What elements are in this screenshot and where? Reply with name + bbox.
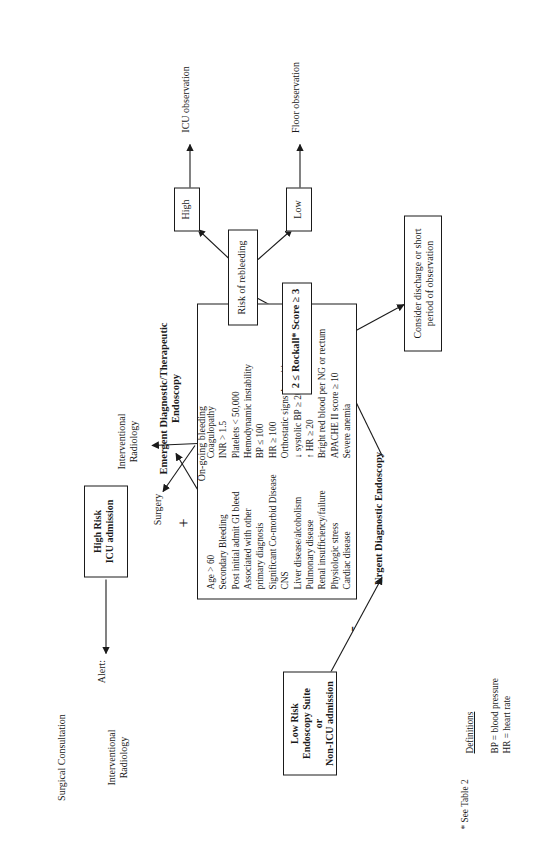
node-low[interactable]: Low (286, 187, 312, 231)
node-surgery[interactable]: Surgery (152, 481, 164, 537)
edge-rebleed-to-high (198, 229, 230, 259)
node-interventional-radiology-mid[interactable]: Interventional Radiology (116, 405, 140, 477)
node-high-risk[interactable]: High Risk ICU admission (84, 485, 128, 577)
node-emergent-diagnostic-therapeutic-endoscopy[interactable]: Emergent Diagnostic/Therapeutic Endoscop… (158, 313, 183, 483)
risk-criteria-right-column: Coagulopathy INR > 1.5 Platelets < 50,00… (205, 328, 353, 458)
footnote-see-table-2: * See Table 2 (460, 719, 470, 829)
edge-label-minus: - (344, 626, 360, 631)
figure-page: Age > 60 Secondary Bleeding Post initial… (0, 0, 538, 849)
node-ongoing-bleeding[interactable]: On-going bleeding (196, 389, 208, 497)
node-low-risk[interactable]: Low Risk Endoscopy Suite or Non-ICU admi… (283, 671, 337, 775)
node-alert[interactable]: Alert: (96, 651, 108, 691)
flowchart-canvas: Age > 60 Secondary Bleeding Post initial… (0, 0, 538, 849)
node-high[interactable]: High (174, 187, 200, 231)
node-rockall-score[interactable]: 2 ≤ Rockall* Score ≥ 3 (282, 282, 312, 394)
edge-label-plus: + (176, 518, 192, 527)
node-floor-observation[interactable]: Floor observation (290, 47, 302, 147)
risk-criteria-left-column: Age > 60 Secondary Bleeding Post initial… (205, 474, 353, 589)
node-risk-of-rebleeding[interactable]: Risk of rebleeding (228, 229, 258, 325)
rotated-canvas-wrapper: Age > 60 Secondary Bleeding Post initial… (0, 0, 538, 849)
node-surgical-consultation[interactable]: Surgical Consultation (56, 699, 68, 815)
node-interventional-radiology-top[interactable]: Interventional Radiology (106, 711, 130, 803)
risk-criteria-box: Age > 60 Secondary Bleeding Post initial… (197, 303, 357, 599)
edge-rebleed-to-low (258, 229, 292, 259)
node-consider-discharge[interactable]: Consider discharge or short period of ob… (404, 215, 442, 351)
node-icu-observation[interactable]: ICU observation (180, 51, 192, 147)
definitions-lines: BP = blood pressure HR = heart rate (490, 678, 512, 753)
node-urgent-diagnostic-endoscopy[interactable]: Urgent Diagnostic Endoscopy (373, 449, 385, 587)
